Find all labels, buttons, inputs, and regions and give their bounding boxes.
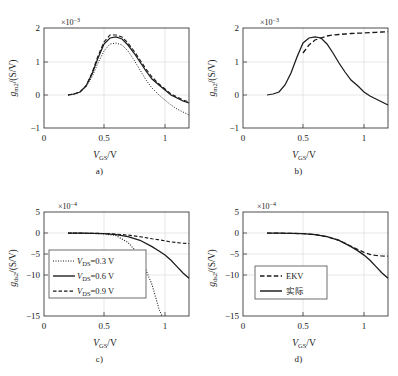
curve-ekv: [303, 32, 388, 53]
panel-b-grid: [243, 28, 388, 128]
panel-c-ytick-5: 5: [36, 207, 41, 217]
panel-c-xtick-1: 1: [163, 321, 168, 331]
panel-a-ytick-2: 2: [36, 23, 41, 33]
figure-four-panel-plot: ×10−3 2 1 0 −1 0 0.5 1 VGS/V gm2/(S/V) a…: [0, 0, 398, 376]
panel-d-grid: [243, 212, 388, 316]
panel-c-xtick-labels: 0 0.5 1: [42, 321, 168, 331]
panel-d-plot: EKV 实际 ×10−4 5 0 −5 −10 −15 0 0.5 1: [199, 188, 398, 376]
panel-a-xtick-labels: 0 0.5 1: [42, 133, 168, 143]
panel-b-ytick-2: 2: [235, 23, 240, 33]
panel-d-exponent: ×10−4: [257, 201, 276, 211]
panel-a-caption: a): [0, 166, 199, 176]
panel-b-plot: ×10−3 2 1 0 −1 0 0.5 1 VGS/V gm2/(S/V): [199, 0, 398, 188]
panel-d-xaxis-label: VGS/V: [292, 338, 316, 349]
panel-d-ytick-m5: −5: [229, 249, 239, 259]
panel-a-xtick-0p5: 0.5: [98, 133, 110, 143]
panel-c-xtick-0p5: 0.5: [98, 321, 110, 331]
panel-b-yaxis-label: gm2/(S/V): [207, 60, 218, 97]
panel-c-plot: VDS=0.3 V VDS=0.6 V VDS=0.9 V ×10−4: [0, 188, 199, 376]
panel-d-xtick-labels: 0 0.5 1: [241, 321, 367, 331]
panel-b-xaxis-label: VGS/V: [292, 150, 316, 161]
panel-a-xaxis-label: VGS/V: [93, 150, 117, 161]
panel-d-yaxis-label: gds2/(S/V): [207, 249, 218, 287]
panel-d-ytick-labels: 5 0 −5 −10 −15: [225, 207, 240, 321]
panel-b-xtick-0p5: 0.5: [297, 133, 309, 143]
panel-c-ytick-m5: −5: [30, 249, 40, 259]
panel-a-ytick-labels: 2 1 0 −1: [30, 23, 40, 133]
panel-b-ytick-1: 1: [235, 57, 240, 67]
panel-c-ytick-m10: −10: [26, 270, 41, 280]
panel-b-xtick-labels: 0 0.5 1: [241, 133, 367, 143]
panel-c: VDS=0.3 V VDS=0.6 V VDS=0.9 V ×10−4: [0, 188, 199, 376]
panel-d: EKV 实际 ×10−4 5 0 −5 −10 −15 0 0.5 1: [199, 188, 398, 376]
panel-b-ytick-labels: 2 1 0 −1: [229, 23, 239, 133]
panel-d-ytick-m15: −15: [225, 311, 240, 321]
panel-a-exponent: ×10−3: [61, 17, 80, 27]
panel-d-legend-label-1: 实际: [286, 286, 304, 296]
panel-c-ytick-labels: 5 0 −5 −10 −15: [26, 207, 41, 321]
curve-vds-0p3: [68, 43, 189, 115]
panel-b-curves: [267, 32, 388, 105]
panel-d-xtick-0: 0: [241, 321, 246, 331]
panel-a-xtick-1: 1: [163, 133, 168, 143]
panel-d-xtick-1: 1: [362, 321, 367, 331]
panel-b-caption: b): [199, 166, 398, 176]
panel-c-xtick-0: 0: [42, 321, 47, 331]
page-bleed-through: [0, 352, 398, 376]
panel-a-yaxis-label: gm2/(S/V): [8, 60, 19, 97]
panel-d-ytick-m10: −10: [225, 270, 240, 280]
curve-vds-0p9: [68, 233, 189, 243]
panel-a-plot: ×10−3 2 1 0 −1 0 0.5 1 VGS/V gm2/(S/V): [0, 0, 199, 188]
panel-a-ytick-m1: −1: [30, 123, 40, 133]
panel-d-legend-label-0: EKV: [286, 271, 304, 281]
panel-d-legend: EKV 实际: [255, 266, 327, 299]
panel-b-axes-box: [243, 28, 388, 128]
panel-d-axes-box: [243, 212, 388, 316]
panel-a-xtick-0: 0: [42, 133, 47, 143]
panel-c-xaxis-label: VGS/V: [93, 338, 117, 349]
panel-a-ytick-1: 1: [36, 57, 41, 67]
curve-vds-0p6: [68, 37, 189, 103]
panel-b: ×10−3 2 1 0 −1 0 0.5 1 VGS/V gm2/(S/V) b…: [199, 0, 398, 188]
panel-b-xtick-0: 0: [241, 133, 246, 143]
panel-b-ytick-0: 0: [235, 90, 240, 100]
panel-a: ×10−3 2 1 0 −1 0 0.5 1 VGS/V gm2/(S/V) a…: [0, 0, 199, 188]
panel-a-ytick-0: 0: [36, 90, 41, 100]
panel-d-xtick-0p5: 0.5: [297, 321, 309, 331]
panel-c-exponent: ×10−4: [58, 201, 77, 211]
panel-d-ytick-0: 0: [235, 228, 240, 238]
panel-c-legend: VDS=0.3 V VDS=0.6 V VDS=0.9 V: [49, 250, 146, 298]
panel-c-yaxis-label: gds2/(S/V): [8, 249, 19, 287]
panel-b-ytick-m1: −1: [229, 123, 239, 133]
panel-c-ytick-0: 0: [36, 228, 41, 238]
panel-b-exponent: ×10−3: [260, 17, 279, 27]
panel-c-ytick-m15: −15: [26, 311, 41, 321]
panel-b-xtick-1: 1: [362, 133, 367, 143]
panel-d-ytick-5: 5: [235, 207, 240, 217]
panel-a-curves: [68, 35, 189, 115]
